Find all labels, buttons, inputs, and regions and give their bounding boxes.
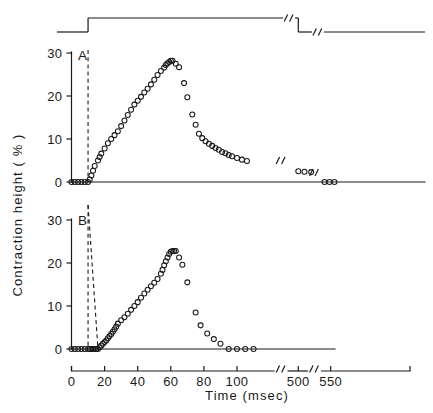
x-tick-label-0: 0 (68, 374, 76, 389)
data-point (193, 122, 198, 127)
data-point (180, 262, 185, 267)
data-point (115, 129, 120, 134)
tick-labels-group: 01020300102030020406080100500550 (47, 46, 342, 390)
data-point (218, 341, 223, 346)
data-point (177, 255, 182, 260)
data-point (190, 112, 195, 117)
data-point (185, 280, 190, 285)
data-point (122, 118, 127, 123)
figure-container: 01020300102030020406080100500550 A B Tim… (0, 0, 433, 413)
stimulus-break-1-slash-1 (290, 15, 293, 22)
series-a-break-1-slash-0 (276, 157, 279, 164)
contraction-onset-dashed-b (88, 205, 98, 349)
data-point (119, 124, 124, 129)
x-tick-label-20: 20 (97, 374, 112, 389)
data-point (148, 82, 153, 87)
data-point (193, 310, 198, 315)
series-a-break-1-slash-1 (282, 157, 285, 164)
x-axis-title: Time (msec) (205, 388, 289, 403)
y-tick-label-20: 20 (47, 89, 62, 104)
series-contraction-height-a (69, 58, 337, 184)
x-tick-label-40: 40 (130, 374, 145, 389)
y-tick-label-20: 20 (47, 256, 62, 271)
y-tick-label-10: 10 (47, 132, 62, 147)
data-series-group (69, 58, 337, 351)
stimulus-break-1-slash-0 (284, 15, 287, 22)
stimulus-break-2-slash-1 (318, 29, 321, 36)
dashed-guides-group (88, 50, 98, 349)
stimulus-break-2-slash-0 (313, 29, 316, 36)
data-point (302, 169, 307, 174)
data-point (198, 323, 203, 328)
y-tick-label-0: 0 (55, 342, 63, 357)
data-point (177, 65, 182, 70)
data-point (182, 81, 187, 86)
y-tick-label-30: 30 (47, 213, 62, 228)
panel-label-a: A (78, 48, 87, 63)
x-tick-label-100: 100 (226, 374, 249, 389)
data-point (205, 331, 210, 336)
data-point (102, 146, 107, 151)
data-point (185, 95, 190, 100)
data-point (239, 157, 244, 162)
x-axis-break-1-slash-0 (276, 366, 279, 373)
y-tick-label-0: 0 (55, 175, 63, 190)
x-tick-label-550: 550 (319, 374, 342, 389)
data-point (235, 155, 240, 160)
y-tick-label-10: 10 (47, 299, 62, 314)
y-axis-title: Contraction height ( % ) (10, 134, 25, 297)
chart-canvas: 01020300102030020406080100500550 A B Tim… (0, 0, 433, 413)
data-point (296, 169, 301, 174)
y-tick-label-30: 30 (47, 46, 62, 61)
panel-label-b: B (78, 213, 87, 228)
x-tick-label-500: 500 (287, 374, 310, 389)
x-tick-label-80: 80 (196, 374, 211, 389)
data-point (211, 337, 216, 342)
x-axis-break-1-slash-1 (282, 366, 285, 373)
data-point (155, 276, 160, 281)
x-axis-break-2-slash-0 (310, 366, 313, 373)
series-a-break-2-slash-1 (315, 169, 318, 176)
stimulus-trace-group (57, 15, 425, 36)
x-axis-break-2-slash-1 (315, 366, 318, 373)
data-point (152, 77, 157, 82)
data-point (125, 112, 130, 117)
data-point (92, 164, 97, 169)
data-point (244, 158, 249, 163)
x-tick-label-60: 60 (163, 374, 178, 389)
data-point (129, 107, 134, 112)
